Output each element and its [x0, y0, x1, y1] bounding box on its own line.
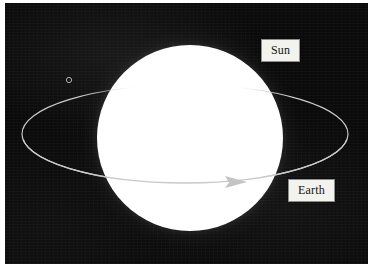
callout-sun-text: Sun — [271, 43, 290, 57]
callout-label-sun: Sun — [261, 39, 300, 62]
film-grain-texture — [5, 3, 368, 264]
sun-disc — [97, 45, 283, 231]
callout-label-earth: Earth — [288, 179, 335, 202]
figure-root: Sun Earth — [0, 0, 376, 272]
callout-earth-text: Earth — [298, 183, 325, 197]
photographic-plate — [5, 3, 368, 264]
